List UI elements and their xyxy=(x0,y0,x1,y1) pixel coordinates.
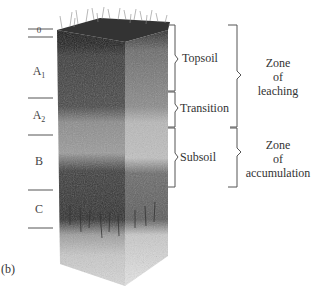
horizon-label-a2: A2 xyxy=(24,108,54,124)
horizon-dividers xyxy=(28,29,53,228)
layer-braces xyxy=(168,25,178,187)
horizon-label-a1: A1 xyxy=(24,64,54,80)
horizon-label-b: B xyxy=(24,154,54,169)
panel-label: (b) xyxy=(1,262,15,277)
layer-label-transition: Transition xyxy=(180,101,229,116)
zone-label-leaching: Zone of leaching xyxy=(233,56,320,98)
zone-label-accumulation: Zone of accumulation xyxy=(233,138,320,180)
layer-label-topsoil: Topsoil xyxy=(182,51,218,66)
horizon-label-c: C xyxy=(24,202,54,217)
horizon-label-o: 0 xyxy=(24,25,54,35)
layer-label-subsoil: Subsoil xyxy=(180,150,216,165)
